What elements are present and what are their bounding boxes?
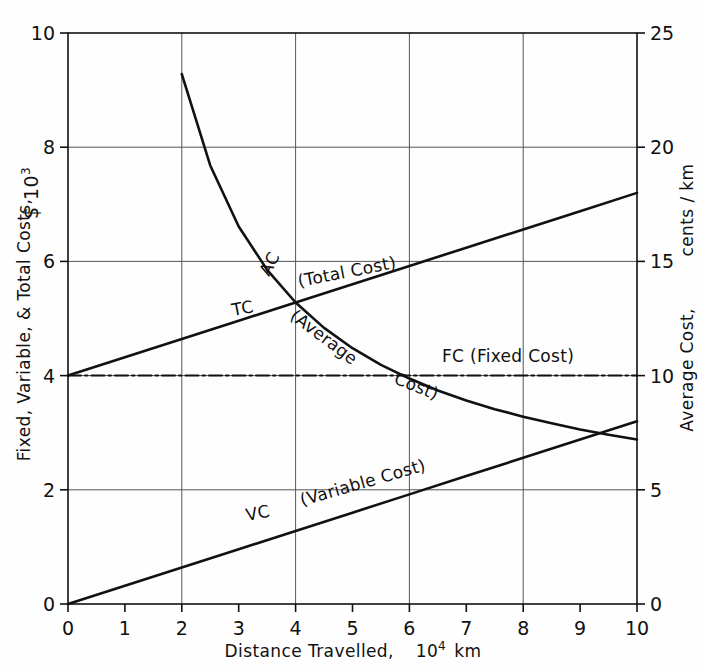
y-right-title-main: Average Cost,: [677, 308, 697, 432]
y-right-tick-label: 0: [650, 593, 662, 615]
x-tick-label: 10: [625, 617, 649, 639]
x-tick-label: 9: [574, 617, 586, 639]
svg-text:Fixed, Variable, & Total Costs: Fixed, Variable, & Total Costs,: [14, 199, 34, 462]
x-axis-unit-tail: km: [454, 641, 481, 661]
fc-label: FC (Fixed Cost): [442, 346, 574, 366]
x-axis-unit-exponent: 4: [438, 639, 446, 653]
x-tick-label: 8: [517, 617, 529, 639]
x-axis-title-main: Distance Travelled,: [225, 641, 394, 661]
y-right-tick-label: 25: [650, 22, 674, 44]
x-tick-label: 7: [460, 617, 472, 639]
y-right-axis-unit: cents / km: [677, 163, 697, 256]
y-left-axis-title: Fixed, Variable, & Total Costs,: [14, 199, 34, 462]
x-axis-unit-base: 10: [416, 641, 438, 661]
y-right-tick-label: 5: [650, 479, 662, 501]
y-left-tick-label: 4: [43, 365, 55, 387]
x-tick-label: 5: [346, 617, 358, 639]
y-left-tick-label: 8: [43, 136, 55, 158]
y-left-tick-label: 2: [43, 479, 55, 501]
x-tick-label: 6: [403, 617, 415, 639]
figure-background: [0, 0, 706, 670]
y-left-unit-base: $ 10: [20, 175, 42, 219]
x-tick-label: 1: [119, 617, 131, 639]
chart-figure: 01234567891002468100510152025 Distance T…: [0, 0, 706, 670]
x-tick-label: 4: [290, 617, 302, 639]
y-left-tick-label: 10: [31, 22, 55, 44]
cost-vs-distance-chart: 01234567891002468100510152025 Distance T…: [0, 0, 706, 670]
svg-text:cents / km: cents / km: [677, 163, 697, 256]
y-right-tick-label: 20: [650, 136, 674, 158]
y-right-axis-title: Average Cost,: [677, 308, 697, 432]
svg-text:Average Cost,: Average Cost,: [677, 308, 697, 432]
y-left-tick-label: 6: [43, 250, 55, 272]
y-left-tick-label: 0: [43, 593, 55, 615]
y-right-tick-label: 15: [650, 250, 674, 272]
y-left-unit-exponent: 3: [19, 167, 33, 175]
y-right-tick-label: 10: [650, 365, 674, 387]
y-left-title-main: Fixed, Variable, & Total Costs,: [14, 199, 34, 462]
x-tick-label: 3: [233, 617, 245, 639]
tc-label-code: TC: [229, 296, 255, 320]
x-tick-label: 0: [62, 617, 74, 639]
y-right-unit-tail: cents / km: [677, 163, 697, 256]
x-tick-label: 2: [176, 617, 188, 639]
